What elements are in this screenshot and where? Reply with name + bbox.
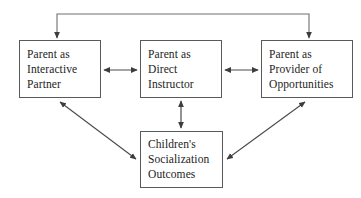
node-socialization-outcomes: Children's Socialization Outcomes: [140, 131, 223, 188]
node-interactive-partner: Parent as Interactive Partner: [19, 40, 101, 98]
node-direct-instructor-line-2: Direct: [148, 62, 177, 77]
node-direct-instructor-line-3: Instructor: [148, 77, 194, 92]
node-outcomes-line-2: Socialization: [148, 152, 209, 167]
node-provider-line-3: Opportunities: [269, 77, 334, 92]
diagram-canvas: Parent as Interactive Partner Parent as …: [0, 0, 361, 198]
node-outcomes-line-1: Children's: [148, 137, 196, 152]
node-interactive-partner-line-2: Interactive: [27, 62, 77, 77]
node-provider-line-2: Provider of: [269, 62, 322, 77]
node-outcomes-line-3: Outcomes: [148, 167, 195, 182]
node-direct-instructor-line-1: Parent as: [148, 47, 191, 62]
node-direct-instructor: Parent as Direct Instructor: [140, 40, 222, 98]
node-provider-line-1: Parent as: [269, 47, 312, 62]
edge-provider-outcomes: [227, 102, 305, 159]
node-provider-of-opportunities: Parent as Provider of Opportunities: [261, 40, 353, 98]
edge-interactive-partner-outcomes: [60, 102, 136, 159]
node-interactive-partner-line-1: Parent as: [27, 47, 70, 62]
edge-top-bracket: [57, 14, 309, 38]
node-interactive-partner-line-3: Partner: [27, 77, 61, 92]
